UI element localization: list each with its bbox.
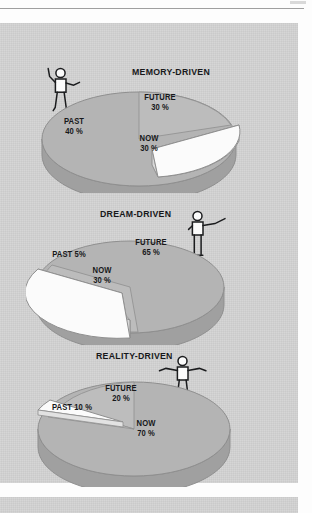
- page-canvas: MEMORY-DRIVEN: [0, 0, 312, 513]
- header-rule: [0, 8, 304, 9]
- chart-memory-driven: MEMORY-DRIVEN: [0, 55, 298, 190]
- slice-label-future-memory: FUTURE 30 %: [135, 93, 185, 112]
- chart-title-memory-driven: MEMORY-DRIVEN: [132, 66, 210, 77]
- slice-label-now-memory: NOW 30 %: [129, 134, 168, 153]
- next-panel: [0, 497, 298, 513]
- chart-dream-driven: DREAM-DRIVEN: [0, 200, 298, 345]
- slice-label-past-reality: PAST 10 %: [39, 403, 106, 413]
- chart-reality-driven: REALITY-DRIVEN: [0, 343, 298, 483]
- paper-grain-next: [0, 497, 298, 513]
- folio-mark: [290, 1, 306, 4]
- slice-label-future-reality: FUTURE 20 %: [96, 384, 146, 403]
- chart-title-dream-driven: DREAM-DRIVEN: [100, 208, 171, 219]
- slice-label-now-reality: NOW 70 %: [125, 419, 168, 438]
- slice-label-past-memory: PAST 40 %: [54, 117, 93, 136]
- slice-label-now-dream: NOW 30 %: [81, 266, 124, 285]
- slice-label-past-dream: PAST 5%: [36, 250, 101, 260]
- slice-label-future-dream: FUTURE 65 %: [126, 238, 176, 257]
